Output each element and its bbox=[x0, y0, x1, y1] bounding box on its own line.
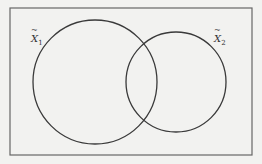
x1-label-sub: 1 bbox=[38, 39, 42, 47]
set-x1-label: X1 bbox=[31, 33, 43, 47]
set-x2-circle bbox=[126, 32, 226, 132]
set-x2-label: X2 bbox=[214, 33, 226, 47]
x2-label-sub: 2 bbox=[221, 39, 225, 47]
x1-label-base: X bbox=[31, 33, 38, 44]
venn-diagram bbox=[0, 0, 262, 164]
set-x1-circle bbox=[33, 20, 157, 144]
x2-label-base: X bbox=[214, 33, 221, 44]
